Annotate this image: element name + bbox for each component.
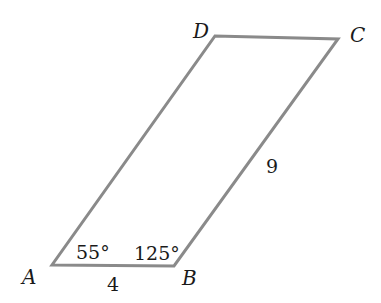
angle-label-a: 55° <box>76 241 110 263</box>
vertex-label-a: A <box>20 265 36 289</box>
parallelogram-shape <box>52 36 338 266</box>
diagram-canvas: A B C D 4 9 55° 125° <box>0 0 381 303</box>
angle-label-b: 125° <box>134 242 180 264</box>
side-label-bc: 9 <box>266 155 278 177</box>
parallelogram-diagram: A B C D 4 9 55° 125° <box>0 0 381 303</box>
vertex-label-d: D <box>192 19 209 43</box>
vertex-label-c: C <box>350 23 365 47</box>
vertex-label-b: B <box>181 266 197 290</box>
side-label-ab: 4 <box>107 273 119 295</box>
